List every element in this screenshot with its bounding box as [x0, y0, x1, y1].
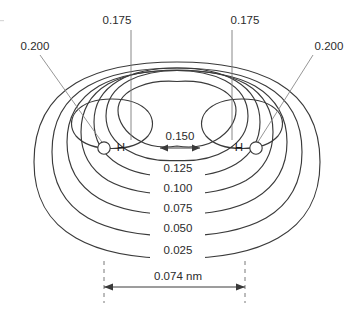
right-hydrogen-nucleus-marker — [250, 142, 262, 154]
bond-length-label: 0.074 nm — [154, 270, 202, 282]
contour-diagram: 0.175 0.175 0.200 0.200 0.150 0.125 0.10… — [0, 0, 355, 315]
label-0175-left: 0.175 — [103, 14, 132, 26]
edge-artifact — [0, 20, 4, 21]
leader-line-0200-right — [256, 55, 313, 145]
bond-length-dimension-line — [104, 283, 245, 290]
center-distance-arrow — [160, 145, 200, 152]
label-0150: 0.150 — [166, 130, 195, 142]
label-0175-right: 0.175 — [231, 14, 260, 26]
label-0050: 0.050 — [164, 222, 193, 234]
right-hydrogen-label: H — [235, 141, 243, 153]
left-hydrogen-label: H — [117, 141, 125, 153]
label-0200-left: 0.200 — [21, 40, 50, 52]
left-hydrogen-nucleus-marker — [98, 142, 110, 154]
label-0025: 0.025 — [164, 244, 193, 256]
label-0125: 0.125 — [164, 162, 193, 174]
label-0100: 0.100 — [164, 182, 193, 194]
label-0075: 0.075 — [164, 202, 193, 214]
label-0200-right: 0.200 — [315, 40, 344, 52]
leader-line-0200-left — [40, 55, 104, 145]
